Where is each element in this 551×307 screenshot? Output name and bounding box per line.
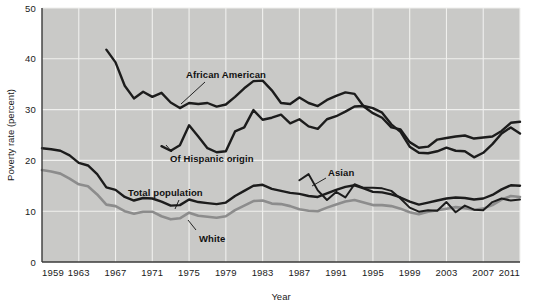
plot-area-background	[42, 8, 520, 262]
x-tick-label-1967: 1967	[105, 267, 127, 278]
poverty-rate-line-chart: 01020304050 1959196319671971197519791983…	[0, 0, 551, 307]
x-tick-label-1995: 1995	[362, 267, 384, 278]
x-axis-title: Year	[271, 291, 290, 302]
x-tick-label-1979: 1979	[215, 267, 237, 278]
annotation-total-population: Total population	[128, 187, 203, 198]
x-tick-label-1959: 1959	[42, 267, 64, 278]
y-tick-label-30: 30	[25, 104, 36, 115]
annotation-hispanic: Of Hispanic origin	[170, 153, 254, 164]
x-tick-label-1975: 1975	[178, 267, 200, 278]
x-tick-label-2011: 2011	[499, 267, 520, 278]
y-tick-label-50: 50	[25, 3, 36, 14]
x-tick-label-2003: 2003	[435, 267, 457, 278]
y-tick-label-20: 20	[25, 155, 36, 166]
y-tick-label-10: 10	[25, 206, 36, 217]
x-tick-label-1999: 1999	[399, 267, 421, 278]
x-tick-label-1991: 1991	[325, 267, 347, 278]
y-axis-title: Poverty rate (percent)	[5, 89, 16, 181]
x-tick-label-2007: 2007	[472, 267, 494, 278]
annotation-asian: Asian	[328, 167, 354, 178]
chart-page: 01020304050 1959196319671971197519791983…	[0, 0, 551, 307]
annotation-white: White	[199, 233, 225, 244]
x-tick-label-1987: 1987	[288, 267, 310, 278]
x-tick-label-1983: 1983	[252, 267, 274, 278]
y-tick-label-0: 0	[31, 257, 36, 268]
y-tick-label-40: 40	[25, 53, 36, 64]
x-tick-label-1963: 1963	[68, 267, 90, 278]
annotation-african-american: African American	[186, 69, 266, 80]
x-tick-label-1971: 1971	[141, 267, 163, 278]
